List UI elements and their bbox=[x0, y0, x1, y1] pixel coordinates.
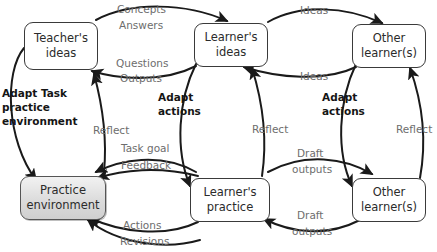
node-learner-ideas-line1: Learner's bbox=[204, 30, 257, 45]
node-learner-practice[interactable]: Learner's practice bbox=[190, 178, 270, 222]
diagram-canvas: Teacher's ideas Learner's ideas Other le… bbox=[0, 0, 437, 252]
edge-adapt-actions-right bbox=[341, 64, 356, 186]
edge-label-actions: Actions bbox=[123, 218, 161, 232]
node-practice-environment[interactable]: Practice environment bbox=[20, 176, 106, 220]
edge-label-questions: Questions bbox=[116, 56, 168, 70]
edge-label-concepts: Concepts bbox=[117, 2, 166, 16]
annotation-adapt-actions-middle: Adapt actions bbox=[158, 90, 218, 118]
node-other-learners-bottom-line1: Other bbox=[373, 185, 406, 200]
annotation-adapt-task-line2: practice bbox=[2, 101, 50, 113]
edge-label-draft-outputs-lower-line1: Draft bbox=[297, 208, 323, 222]
node-teacher-ideas[interactable]: Teacher's ideas bbox=[24, 22, 98, 70]
edge-label-revisions: Revisions bbox=[120, 234, 169, 248]
node-learner-practice-line2: practice bbox=[207, 200, 254, 215]
annotation-adapt-task-line3: environment bbox=[2, 115, 77, 127]
annotation-adapt-task-line1: Adapt Task bbox=[2, 87, 67, 99]
annotation-adapt-actions-right-line1: Adapt bbox=[322, 91, 357, 103]
node-other-learners-top-line2: learner(s) bbox=[361, 46, 417, 61]
edge-label-reflect-right: Reflect bbox=[396, 122, 432, 136]
edge-label-ideas-top: Ideas bbox=[300, 3, 328, 17]
annotation-adapt-actions-middle-line1: Adapt bbox=[158, 91, 193, 103]
edge-label-draft-outputs-lower-line2: outputs bbox=[292, 224, 332, 238]
edge-label-outputs: Outputs bbox=[120, 71, 162, 85]
annotation-adapt-task-practice-environment: Adapt Task practice environment bbox=[2, 86, 84, 128]
edge-label-draft-outputs-upper-line1: Draft bbox=[297, 146, 323, 160]
edge-label-feedback: Feedback bbox=[121, 158, 171, 172]
node-practice-environment-line2: environment bbox=[26, 198, 99, 213]
edge-label-reflect-middle: Reflect bbox=[252, 122, 288, 136]
node-other-learners-top-line1: Other bbox=[373, 31, 406, 46]
node-learner-ideas-line2: ideas bbox=[216, 45, 247, 60]
node-learner-practice-line1: Learner's bbox=[203, 185, 256, 200]
node-practice-environment-line1: Practice bbox=[40, 183, 86, 198]
edge-label-draft-outputs-upper-line2: outputs bbox=[292, 162, 332, 176]
edge-label-reflect-left: Reflect bbox=[93, 123, 129, 137]
node-other-learners-bottom-line2: learner(s) bbox=[361, 200, 417, 215]
node-other-learners-bottom[interactable]: Other learner(s) bbox=[352, 178, 426, 222]
annotation-adapt-actions-right-line2: actions bbox=[322, 105, 365, 117]
node-teacher-ideas-line2: ideas bbox=[46, 46, 77, 61]
node-learner-ideas[interactable]: Learner's ideas bbox=[194, 23, 268, 67]
annotation-adapt-actions-middle-line2: actions bbox=[158, 105, 201, 117]
edge-label-answers: Answers bbox=[119, 18, 163, 32]
edge-label-task-goal: Task goal bbox=[121, 141, 169, 155]
edge-label-ideas-bottom: Ideas bbox=[300, 69, 328, 83]
annotation-adapt-actions-right: Adapt actions bbox=[322, 90, 382, 118]
node-other-learners-top[interactable]: Other learner(s) bbox=[352, 24, 426, 68]
node-teacher-ideas-line1: Teacher's bbox=[34, 31, 88, 46]
